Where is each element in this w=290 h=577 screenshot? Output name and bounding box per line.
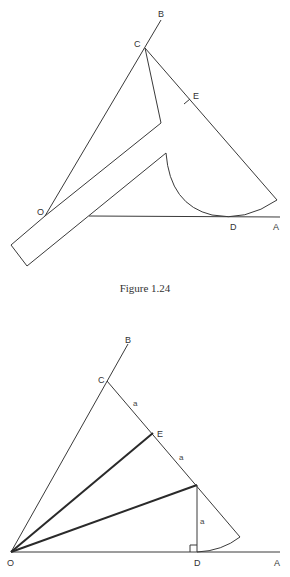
label-a-EF: a [179,453,184,462]
label-O: O [37,207,44,217]
trisector-OF [11,485,197,552]
tomahawk-arc [166,153,277,217]
ray-OB [11,344,128,552]
label-E: E [193,91,199,101]
ray-OB [45,20,161,216]
label-a-FD: a [200,517,205,526]
right-angle-marker [190,545,197,552]
tick-E [184,99,190,104]
label-B: B [158,9,164,19]
label-D: D [194,558,201,568]
label-A: A [274,558,280,568]
arc-D [197,537,240,552]
top-figure: B C E O D A [11,9,280,266]
line-C-to-arc [107,381,240,537]
label-E: E [157,429,163,439]
tomahawk-outline [11,48,166,266]
line-CE [145,48,277,200]
trisector-OE [11,433,153,552]
diagram-canvas: B C E O D A Figure 1.24 B C E O D A a a … [0,0,290,577]
label-a-CE: a [133,399,138,408]
label-O: O [7,558,14,568]
label-D: D [230,222,237,232]
label-A: A [273,222,279,232]
label-C: C [98,375,105,385]
ray-OA [89,216,280,217]
bottom-figure: B C E O D A a a a [7,335,280,568]
label-C: C [134,39,141,49]
figure-caption: Figure 1.24 [120,282,171,294]
label-B: B [125,335,131,345]
